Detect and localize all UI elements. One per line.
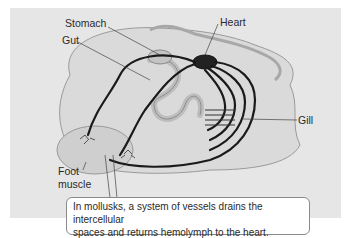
- caption-box: In mollusks, a system of vessels drains …: [66, 197, 310, 235]
- label-gut: Gut: [62, 35, 79, 46]
- label-muscle: muscle: [58, 179, 91, 190]
- caption-line-2: spaces and returns hemolymph to the hear…: [73, 226, 303, 238]
- label-heart: Heart: [220, 17, 246, 28]
- caption-line-1: In mollusks, a system of vessels drains …: [73, 200, 303, 226]
- label-gill: Gill: [298, 115, 313, 126]
- label-foot: Foot: [58, 166, 79, 177]
- label-stomach: Stomach: [65, 18, 106, 29]
